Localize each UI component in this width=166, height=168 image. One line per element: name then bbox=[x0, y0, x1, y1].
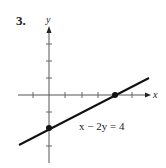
x-intercept-point bbox=[112, 92, 118, 98]
y-axis: y bbox=[45, 14, 52, 163]
equation-label: x − 2y = 4 bbox=[79, 120, 125, 132]
y-axis-label: y bbox=[45, 14, 51, 25]
line-series bbox=[19, 78, 149, 145]
y-axis-arrow-icon bbox=[47, 26, 52, 33]
graph: x y x − 2y = 4 bbox=[0, 0, 166, 168]
x-axis: x bbox=[18, 89, 158, 100]
x-axis-label: x bbox=[152, 89, 158, 100]
y-intercept-point bbox=[46, 125, 52, 131]
x-axis-arrow-icon bbox=[145, 93, 151, 98]
